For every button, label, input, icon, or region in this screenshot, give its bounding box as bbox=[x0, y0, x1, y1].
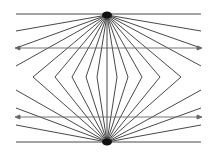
ray-line bbox=[107, 125, 201, 142]
chevron-ray bbox=[107, 15, 142, 142]
ray-lines bbox=[16, 14, 201, 142]
apex-dot bbox=[102, 12, 112, 19]
chevron-ray bbox=[107, 15, 160, 142]
ray-line bbox=[16, 125, 107, 142]
apex-dot bbox=[102, 139, 112, 146]
chevron-ray bbox=[55, 15, 107, 142]
chevron-ray bbox=[107, 15, 117, 142]
arrowhead-left-icon bbox=[15, 115, 20, 119]
chevron-ray bbox=[72, 15, 107, 142]
arrow-lines bbox=[15, 46, 202, 119]
arrowhead-right-icon bbox=[197, 115, 202, 119]
illusion-figure bbox=[0, 0, 214, 152]
arrowhead-right-icon bbox=[197, 46, 202, 50]
chevron-ray bbox=[97, 15, 107, 142]
arrowhead-left-icon bbox=[15, 46, 20, 50]
